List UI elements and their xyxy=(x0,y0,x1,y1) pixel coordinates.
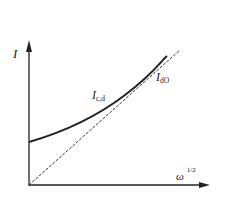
diagram: I Ic,d IdO ω1/2 xyxy=(0,0,228,204)
x-axis-arrow-icon xyxy=(199,182,210,188)
x-axis-label: ω1/2 xyxy=(176,166,196,182)
label-icd: Ic,d xyxy=(91,88,105,103)
y-axis-label: I xyxy=(12,46,18,61)
label-idO: IdO xyxy=(155,70,170,85)
y-axis-arrow-icon xyxy=(26,40,32,52)
